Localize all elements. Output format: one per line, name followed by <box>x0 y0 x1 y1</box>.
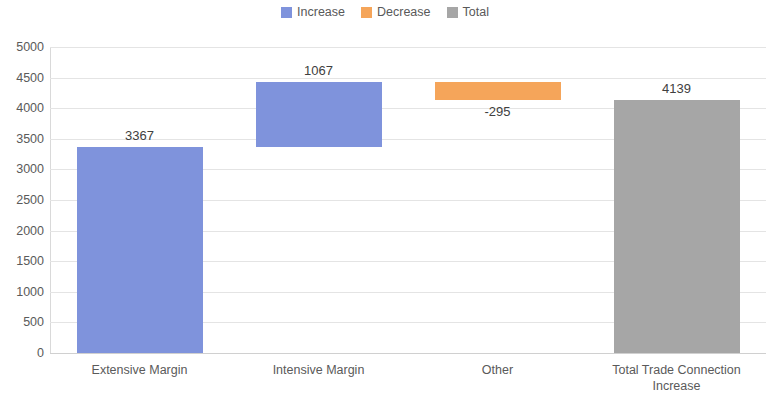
y-axis-tick-label: 2000 <box>0 224 44 238</box>
bar-decrease[interactable] <box>435 82 561 100</box>
legend-label: Decrease <box>377 6 431 18</box>
x-axis-category-label: Other <box>393 362 602 378</box>
y-axis-tick-label: 3000 <box>0 162 44 176</box>
x-axis-category-label: Extensive Margin <box>35 362 244 378</box>
y-axis-tick-label: 0 <box>0 346 44 360</box>
legend-swatch-icon <box>281 7 292 18</box>
x-axis-line <box>50 353 766 354</box>
bar-increase[interactable] <box>77 147 203 353</box>
gridline <box>50 78 766 79</box>
waterfall-chart: IncreaseDecreaseTotal 050010001500200025… <box>0 0 770 404</box>
y-axis-tick-label: 500 <box>0 315 44 329</box>
x-axis-labels: Extensive MarginIntensive MarginOtherTot… <box>50 362 766 404</box>
legend-item-total[interactable]: Total <box>447 6 489 18</box>
bar-value-label: -295 <box>484 104 510 119</box>
y-axis-tick-label: 5000 <box>0 40 44 54</box>
y-axis-tick-label: 2500 <box>0 193 44 207</box>
bar-increase[interactable] <box>256 82 382 147</box>
legend-swatch-icon <box>447 7 458 18</box>
gridline <box>50 47 766 48</box>
x-axis-category-label: Intensive Margin <box>214 362 423 378</box>
plot-area: 0500100015002000250030003500400045005000… <box>50 47 766 353</box>
legend-label: Total <box>463 6 489 18</box>
legend-item-decrease[interactable]: Decrease <box>361 6 431 18</box>
y-axis-tick-label: 1500 <box>0 254 44 268</box>
bar-total[interactable] <box>614 100 740 353</box>
chart-legend: IncreaseDecreaseTotal <box>0 2 770 22</box>
y-axis-tick-label: 4000 <box>0 101 44 115</box>
bar-value-label: 3367 <box>125 128 154 143</box>
bar-value-label: 4139 <box>662 81 691 96</box>
y-axis-tick-label: 3500 <box>0 132 44 146</box>
legend-label: Increase <box>297 6 345 18</box>
legend-swatch-icon <box>361 7 372 18</box>
y-axis-tick-label: 1000 <box>0 285 44 299</box>
x-axis-category-label: Total Trade Connection Increase <box>572 362 770 394</box>
legend-item-increase[interactable]: Increase <box>281 6 345 18</box>
bar-value-label: 1067 <box>304 63 333 78</box>
y-axis-tick-label: 4500 <box>0 71 44 85</box>
